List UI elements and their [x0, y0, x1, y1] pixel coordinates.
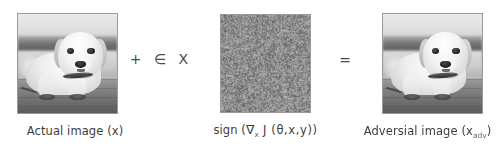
- panel-adversarial-image: [382, 13, 483, 114]
- photo-dog-mouth: [77, 69, 85, 71]
- caption-actual-image: Actual image (x): [0, 124, 150, 138]
- panel-actual-image: [17, 13, 118, 114]
- photo-dog-right-eye: [452, 48, 459, 54]
- fgsm-figure: Actual image (x) + ∈ X sign (∇x J (θ,x,y…: [0, 0, 500, 151]
- actual-image-thumbnail: [17, 13, 118, 114]
- caption-adv-subscript: adv: [473, 131, 487, 140]
- puppy-photo-actual: [18, 14, 117, 113]
- noise-image-thumbnail: [220, 14, 311, 113]
- adversarial-image-thumbnail: [382, 13, 483, 114]
- panel-noise-image: [220, 14, 311, 113]
- photo-dog-left-eye: [67, 48, 74, 54]
- caption-noise-image: sign (∇x J (θ,x,y)): [178, 123, 353, 139]
- nabla-subscript: x: [254, 130, 258, 139]
- operator-equals: =: [330, 52, 360, 68]
- operator-plus-epsilon-times: + ∈ X: [128, 51, 194, 67]
- caption-noise-rest: J (θ,x,y)): [259, 123, 318, 137]
- photo-dog-left-eye: [432, 48, 439, 54]
- photo-dog-left-paw: [39, 94, 55, 100]
- caption-adv-prefix: Adversial image (x: [364, 124, 473, 138]
- gradient-sign-noise-canvas: [221, 15, 310, 112]
- caption-adversarial-image: Adversial image (xadv): [355, 124, 500, 140]
- caption-adv-suffix: ): [487, 124, 492, 138]
- photo-dog-left-paw: [404, 94, 420, 100]
- photo-dog-right-eye: [87, 48, 94, 54]
- puppy-photo-adversarial: [383, 14, 482, 113]
- photo-dog-mouth: [442, 69, 450, 71]
- caption-noise-prefix: sign (: [213, 123, 246, 137]
